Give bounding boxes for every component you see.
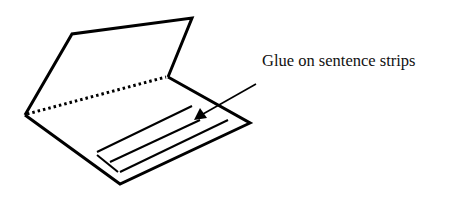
folder-illustration bbox=[0, 0, 454, 198]
fold-line bbox=[27, 77, 166, 114]
glue-label: Glue on sentence strips bbox=[262, 51, 416, 71]
sentence-strips bbox=[97, 106, 228, 172]
top-flap-outline bbox=[25, 18, 192, 115]
arrow-icon bbox=[194, 84, 256, 120]
bottom-panel-outline bbox=[25, 77, 250, 184]
